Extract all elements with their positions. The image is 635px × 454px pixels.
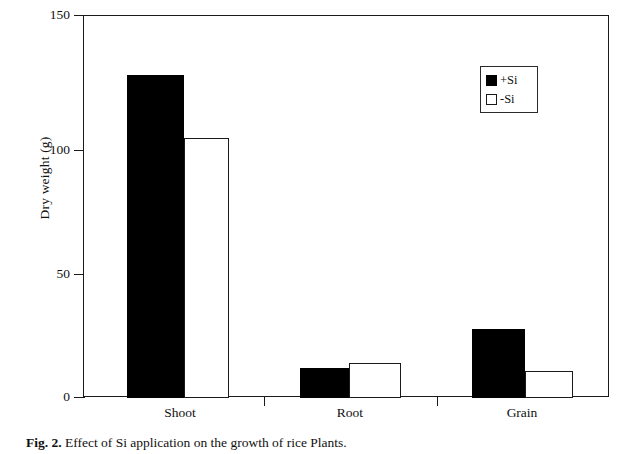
y-tickmark-0 — [74, 397, 85, 398]
bar-shoot-minus-si — [184, 138, 229, 398]
y-tick-label-100: 100 — [26, 143, 70, 157]
x-label-root: Root — [300, 405, 400, 421]
x-tickmark-1 — [264, 397, 265, 406]
figure-caption: Fig. 2. Effect of Si application on the … — [26, 434, 616, 454]
caption-label: Fig. 2. — [26, 435, 62, 450]
legend-swatch-open-icon — [486, 94, 497, 105]
legend-entry-minus-si: -Si — [486, 90, 537, 109]
bar-root-plus-si — [300, 368, 349, 398]
caption-text: Effect of Si application on the growth o… — [65, 435, 347, 450]
y-tick-label-0: 0 — [26, 390, 70, 404]
legend-entry-plus-si: +Si — [486, 71, 537, 90]
bar-shoot-plus-si — [127, 75, 184, 398]
legend-label-plus-si: +Si — [500, 74, 517, 87]
legend-label-minus-si: -Si — [500, 93, 515, 106]
bar-grain-minus-si — [525, 371, 573, 398]
x-tickmark-2 — [437, 397, 438, 406]
y-tick-label-150: 150 — [26, 8, 70, 22]
y-tick-label-50: 50 — [26, 267, 70, 281]
y-axis-title: Dry weight (g) — [37, 98, 53, 258]
x-label-shoot: Shoot — [130, 405, 230, 421]
bar-root-minus-si — [349, 363, 401, 398]
figure-container: Dry weight (g) 150 100 50 0 Shoot Root G… — [0, 0, 635, 454]
legend-swatch-filled-icon — [486, 75, 497, 86]
x-label-grain: Grain — [472, 405, 572, 421]
bar-grain-plus-si — [472, 329, 525, 398]
legend: +Si -Si — [480, 66, 538, 113]
